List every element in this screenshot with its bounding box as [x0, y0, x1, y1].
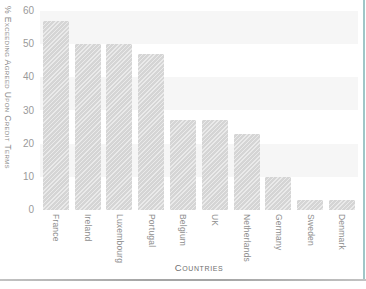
y-tick-label: 40: [6, 71, 34, 83]
bar-germany: [265, 177, 291, 210]
x-axis-label: Luxembourg: [115, 214, 124, 263]
bar-sweden: [297, 200, 323, 210]
bar-slot-luxembourg: [104, 11, 136, 210]
bar-slot-sweden: [294, 11, 326, 210]
bar-uk: [202, 120, 228, 210]
bar-slot-netherlands: [231, 11, 263, 210]
bar-slot-denmark: [326, 11, 358, 210]
x-axis-label: Portugal: [147, 214, 156, 247]
x-axis-label: UK: [211, 214, 220, 226]
bar-slot-belgium: [167, 11, 199, 210]
bar-ireland: [75, 44, 101, 210]
bar-luxembourg: [106, 44, 132, 210]
x-axis-label: Netherlands: [242, 214, 251, 262]
bar-denmark: [329, 200, 355, 210]
x-axis-label: Germany: [274, 214, 283, 250]
x-axis-label: Ireland: [83, 214, 92, 241]
y-tick-label: 0: [6, 204, 34, 216]
y-tick-label: 30: [6, 105, 34, 117]
x-axis-title: Countries: [40, 262, 358, 273]
bar-slot-portugal: [135, 11, 167, 210]
bar-slot-germany: [263, 11, 295, 210]
x-axis-label: Belgium: [179, 214, 188, 246]
bar-belgium: [170, 120, 196, 210]
bottom-divider-line: [0, 279, 366, 281]
x-axis-label: Denmark: [338, 214, 347, 250]
x-axis-label: Sweden: [306, 214, 315, 246]
y-tick-label: 10: [6, 171, 34, 183]
y-tick-label: 50: [6, 38, 34, 50]
bar-chart: % Exceeding Agreed Upon Credit Terms 010…: [0, 0, 366, 289]
bar-netherlands: [234, 134, 260, 210]
y-tick-label: 60: [6, 5, 34, 17]
right-accent-line: [363, 0, 365, 279]
bar-slot-france: [40, 11, 72, 210]
x-axis-label: France: [52, 214, 61, 242]
y-tick-label: 20: [6, 138, 34, 150]
plot-area: [40, 11, 358, 210]
bar-slot-uk: [199, 11, 231, 210]
bar-france: [43, 21, 69, 210]
bar-portugal: [138, 54, 164, 210]
bars-container: [40, 11, 358, 210]
bar-slot-ireland: [72, 11, 104, 210]
